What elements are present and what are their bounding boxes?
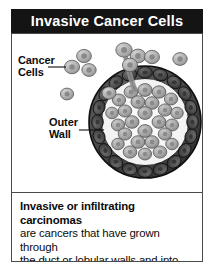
caption-line-1: Invasive or infiltrating carcinomas bbox=[20, 200, 194, 227]
callout-cancer-cells-line1: Cancer bbox=[18, 55, 55, 67]
figure-title-bar: Invasive Cancer Cells bbox=[11, 9, 203, 33]
duct-illustration: Cancer Cells Outer Wall bbox=[12, 34, 202, 192]
callout-outer-wall-line2: Wall bbox=[49, 129, 78, 141]
outer-wall-ring bbox=[89, 66, 201, 178]
figure-caption: Invasive or infiltrating carcinomas are … bbox=[12, 193, 202, 261]
callout-cancer-cells-line2: Cells bbox=[18, 67, 55, 79]
caption-line-3: the duct or lobular walls and into bbox=[20, 254, 194, 262]
caption-lead-term: Invasive or infiltrating carcinomas bbox=[20, 200, 135, 226]
callout-cancer-cells: Cancer Cells bbox=[18, 55, 55, 78]
page-title: Invasive Cancer Cells bbox=[31, 14, 183, 29]
callout-outer-wall: Outer Wall bbox=[49, 117, 78, 140]
caption-line-2: are cancers that have grown through bbox=[20, 227, 194, 254]
callout-outer-wall-line1: Outer bbox=[49, 117, 78, 129]
invasive-cancer-cells-figure: Invasive Cancer Cells bbox=[0, 0, 213, 274]
figure-panel: Cancer Cells Outer Wall Invasive or infi… bbox=[11, 33, 203, 262]
